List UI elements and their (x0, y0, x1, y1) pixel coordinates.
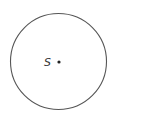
center-point (57, 60, 60, 63)
center-label: S (44, 56, 51, 69)
diagram-canvas: S (0, 0, 158, 129)
